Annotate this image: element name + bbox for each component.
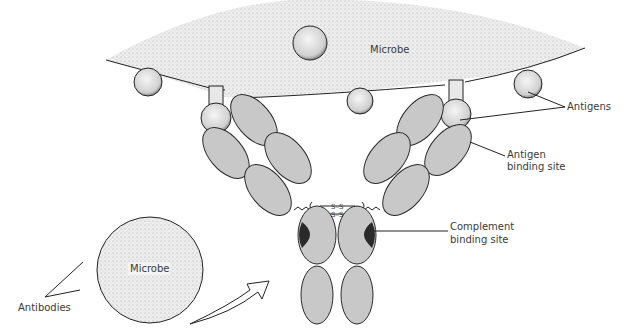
label-microbe-top: Microbe — [370, 44, 409, 55]
fc-left-lower — [301, 266, 333, 324]
label-antibodies: Antibodies — [18, 302, 71, 313]
fc-right-lower — [341, 266, 373, 324]
label-antigens: Antigens — [567, 101, 611, 112]
antigen-left — [134, 68, 162, 96]
label-microbe-bottom: Microbe — [130, 263, 169, 274]
leader-antigens-2 — [460, 107, 565, 120]
leader-antigen-binding-site — [470, 142, 505, 156]
antigen-top — [293, 26, 327, 60]
antibody-diagram: S–S S–S Antigens Antigen binding site Co… — [0, 0, 626, 336]
curved-arrow-icon — [190, 281, 269, 324]
antigen-right — [514, 70, 542, 98]
disulfide-label-1: S–S — [331, 203, 344, 211]
antigen-middle — [347, 88, 373, 114]
label-antigen-binding-site-2: binding site — [507, 161, 566, 172]
label-complement-binding-site-1: Complement — [450, 221, 514, 232]
antibodies-leader — [45, 262, 83, 297]
leader-antigens-1 — [528, 92, 565, 107]
label-antigen-binding-site-1: Antigen — [507, 149, 546, 160]
microbe-top — [106, 0, 585, 98]
label-complement-binding-site-2: binding site — [450, 234, 509, 245]
